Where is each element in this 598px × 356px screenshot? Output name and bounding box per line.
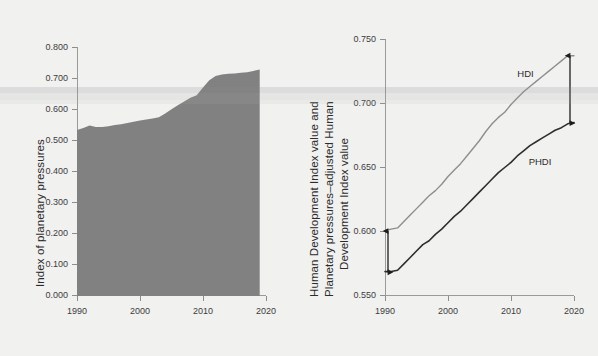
planetary-pressures-area [77, 69, 260, 296]
right-ytick-label-0700: 0.700 [346, 98, 376, 108]
chart-panel-left: Index of planetary pressures 0.800 0.700… [0, 0, 290, 356]
chart-panel-right: Human Development Index value and Planet… [290, 0, 598, 356]
left-ytick-label-0100: 0.100 [38, 259, 68, 269]
right-xtick-mark-2020 [574, 296, 575, 301]
left-ytick-label-0600: 0.600 [38, 104, 68, 114]
left-ytick-label-0000: 0.000 [38, 290, 68, 300]
right-xtick-label-2020: 2020 [554, 306, 594, 316]
right-xtick-mark-2010 [511, 296, 512, 301]
left-xtick-label-2010: 2010 [183, 306, 223, 316]
left-ytick-label-0700: 0.700 [38, 73, 68, 83]
left-ytick-label-0400: 0.400 [38, 166, 68, 176]
left-ytick-label-0200: 0.200 [38, 228, 68, 238]
right-y-axis-title-line1: Human Development Index value and [308, 101, 320, 297]
left-xtick-mark-2010 [203, 296, 204, 301]
left-xtick-label-2000: 2000 [120, 306, 160, 316]
right-y-axis-title-line2: Planetary pressures–adjusted Human [323, 101, 335, 297]
left-ytick-label-0500: 0.500 [38, 135, 68, 145]
left-ytick-label-0800: 0.800 [38, 42, 68, 52]
right-y-axis-title-line3: Development Index value [338, 138, 350, 270]
left-xtick-mark-2000 [140, 296, 141, 301]
hdi-series-line [385, 56, 574, 231]
phdi-series-line [385, 123, 574, 272]
left-xtick-label-2020: 2020 [246, 306, 286, 316]
left-xtick-label-1990: 1990 [57, 306, 97, 316]
left-ytick-label-0300: 0.300 [38, 197, 68, 207]
right-ytick-label-0550: 0.550 [346, 290, 376, 300]
right-ytick-label-0600: 0.600 [346, 226, 376, 236]
hdi-series-label: HDI [517, 68, 533, 79]
right-xtick-mark-2000 [448, 296, 449, 301]
figure-canvas: Index of planetary pressures 0.800 0.700… [0, 0, 598, 356]
right-ytick-label-0650: 0.650 [346, 162, 376, 172]
right-xtick-label-2000: 2000 [428, 306, 468, 316]
left-xtick-mark-1990 [77, 296, 78, 301]
right-xtick-label-2010: 2010 [491, 306, 531, 316]
right-ytick-label-0750: 0.750 [346, 34, 376, 44]
left-plot-area [77, 47, 266, 296]
right-plot-area [385, 39, 574, 296]
left-xtick-mark-2020 [266, 296, 267, 301]
phdi-series-label: PHDI [529, 156, 552, 167]
right-xtick-mark-1990 [385, 296, 386, 301]
right-xtick-label-1990: 1990 [365, 306, 405, 316]
